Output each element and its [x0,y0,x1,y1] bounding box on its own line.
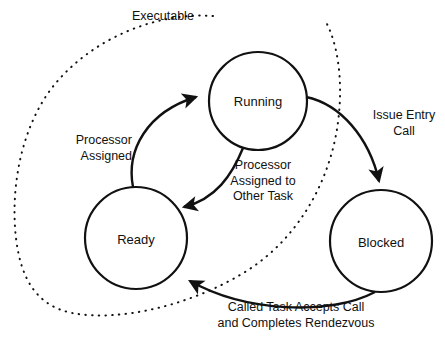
edge-label-issue-entry-call-line2: Call [373,124,436,140]
edge-label-called-task-accepts-call: Called Task Accepts Call and Completes R… [217,300,374,331]
state-label-ready: Ready [117,232,155,247]
diagram-vector-layer [0,0,445,344]
edge-label-issue-entry-call: Issue Entry Call [373,108,436,139]
edge-label-executable-line1: Executable [132,9,194,25]
edge-label-processor-assigned-other-task-line3: Other Task [230,189,295,205]
state-label-running: Running [234,94,282,109]
running-to-blocked-path [306,97,379,181]
state-diagram-canvas: Running Ready Blocked Executable Process… [0,0,445,344]
edge-label-processor-assigned-line1: Processor [46,133,132,149]
edge-label-issue-entry-call-line1: Issue Entry [373,108,436,124]
edge-label-processor-assigned-other-task-line1: Processor [230,158,295,174]
edge-label-processor-assigned: Processor Assigned [46,133,132,164]
edge-label-processor-assigned-line2: Assigned [46,149,132,165]
edge-label-processor-assigned-other-task: Processor Assigned to Other Task [230,158,295,205]
state-label-blocked: Blocked [358,235,404,250]
edge-label-called-task-accepts-call-line2: and Completes Rendezvous [217,316,374,332]
edge-label-called-task-accepts-call-line1: Called Task Accepts Call [217,300,374,316]
ready-to-running-path [132,97,196,187]
edge-label-executable: Executable [132,9,194,25]
edge-label-processor-assigned-other-task-line2: Assigned to [230,174,295,190]
